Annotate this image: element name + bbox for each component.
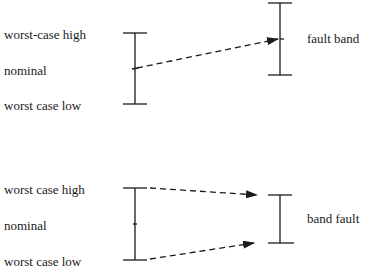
bottom-left-error-bar-icon [123,188,147,260]
diagram-canvas [0,0,369,273]
top-right-fault-band-bar-icon [268,3,292,75]
bottom-lower-dashed-arrow-icon [150,243,254,259]
bottom-upper-dashed-arrow-icon [150,188,257,195]
bottom-right-band-fault-bar-icon [268,195,294,243]
top-left-error-bar-icon [123,33,147,104]
top-dashed-arrow-icon [137,39,278,68]
